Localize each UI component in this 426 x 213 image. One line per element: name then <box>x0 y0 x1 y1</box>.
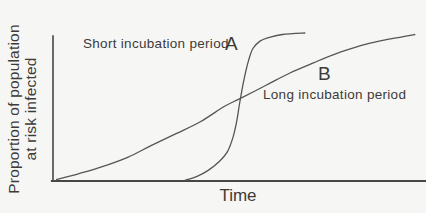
y-axis-title-line-2: at risk infected <box>22 57 39 160</box>
label-curve-letter-b: B <box>318 63 331 84</box>
x-axis-title: Time <box>219 186 256 205</box>
label-curve-letter-a: A <box>225 33 238 54</box>
epidemic-curve-figure: Short incubation period A B Long incubat… <box>0 0 426 213</box>
chart-canvas: Short incubation period A B Long incubat… <box>0 0 426 213</box>
label-long-incubation-period: Long incubation period <box>263 87 406 102</box>
label-short-incubation-period: Short incubation period <box>83 36 229 51</box>
curve-short-incubation-A <box>185 33 305 180</box>
curve-long-incubation-B <box>57 35 415 180</box>
y-axis-title-line-1: Proportion of population <box>5 24 22 193</box>
